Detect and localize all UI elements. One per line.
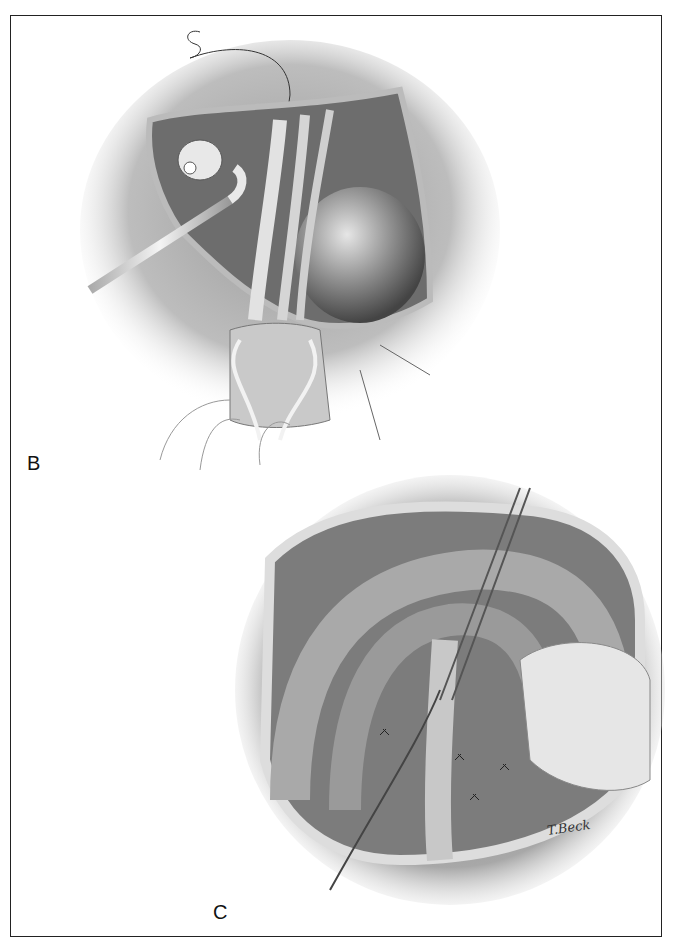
surgical-illustrations <box>0 0 675 949</box>
panel-c-illustration <box>235 475 665 905</box>
sutured-stump <box>178 140 222 180</box>
panel-label-c: C <box>213 901 227 924</box>
panel-label-b: B <box>27 452 40 475</box>
stump-opening <box>184 162 196 174</box>
gauze-hand <box>520 643 650 791</box>
panel-b-illustration <box>80 31 500 470</box>
central-vessel <box>438 640 445 860</box>
